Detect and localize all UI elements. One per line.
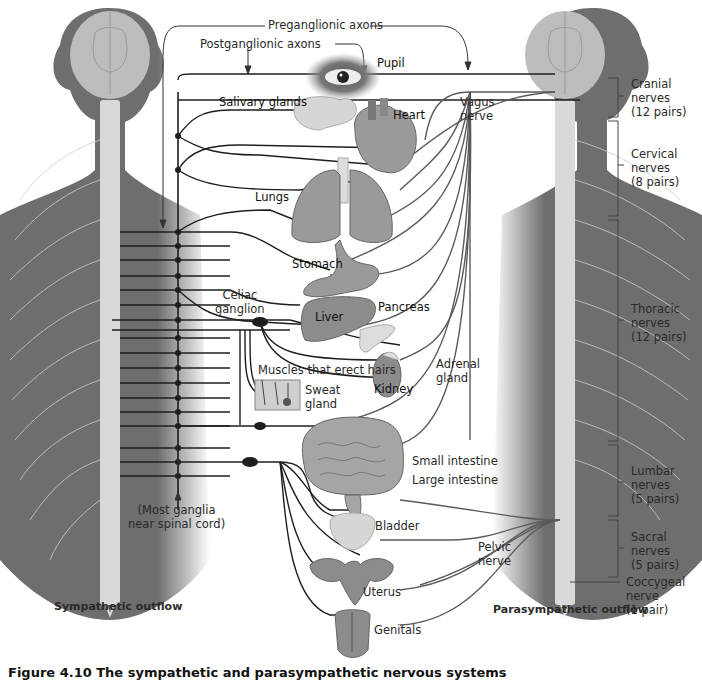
liver-label: Liver — [315, 310, 343, 324]
skin-hair-sample-illustration — [255, 380, 300, 410]
segment-line2: nerves — [631, 161, 679, 175]
segment-name: Cranial — [631, 77, 687, 91]
parasympathetic-outflow-label: Parasympathetic outflow — [493, 603, 648, 617]
vagus-nerve-label: Vagus nerve — [460, 95, 495, 123]
pupil-label: Pupil — [377, 56, 405, 70]
adrenal-line-2: gland — [436, 371, 480, 385]
segment-name: Coccygeal — [626, 575, 685, 589]
muscles-erect-hairs-label: Muscles that erect hairs — [258, 363, 396, 377]
segment-line2: nerves — [631, 316, 687, 330]
bladder-label: Bladder — [375, 519, 420, 533]
segment-count: (8 pairs) — [631, 175, 679, 189]
sympathetic-outflow-label: Sympathetic outflow — [54, 600, 182, 614]
segment-count: (12 pairs) — [631, 105, 687, 119]
celiac-line-2: ganglion — [215, 302, 265, 316]
figure-caption: Figure 4.10 The sympathetic and parasymp… — [8, 665, 507, 680]
pelvic-nerve-label: Pelvic nerve — [478, 540, 511, 568]
genitals-illustration — [335, 610, 370, 658]
thoracic-nerves-label: Thoracic nerves (12 pairs) — [631, 302, 687, 344]
segment-name: Cervical — [631, 147, 679, 161]
segment-name: Lumbar — [631, 464, 679, 478]
vagus-line-2: nerve — [460, 109, 495, 123]
most-ganglia-line-1: (Most ganglia — [128, 503, 225, 517]
heart-label: Heart — [393, 108, 425, 122]
sacral-nerves-label: Sacral nerves (5 pairs) — [631, 530, 679, 572]
preganglionic-axons-label: Preganglionic axons — [268, 18, 383, 32]
coccygeal-nerve-label: Coccygeal nerve (1 pair) — [626, 575, 685, 617]
most-ganglia-line-2: near spinal cord) — [128, 517, 225, 531]
segment-line2: nerves — [631, 478, 679, 492]
stomach-label: Stomach — [292, 257, 343, 271]
lumbar-nerves-label: Lumbar nerves (5 pairs) — [631, 464, 679, 506]
genitals-label: Genitals — [374, 623, 421, 637]
large-intestine-label: Large intestine — [412, 473, 498, 487]
vagus-line-1: Vagus — [460, 95, 495, 109]
lungs-label: Lungs — [255, 190, 289, 204]
segment-name: Thoracic — [631, 302, 687, 316]
segment-count: (5 pairs) — [631, 492, 679, 506]
salivary-glands-label: Salivary glands — [219, 95, 307, 109]
bladder-illustration — [330, 513, 375, 550]
cervical-nerves-label: Cervical nerves (8 pairs) — [631, 147, 679, 189]
pancreas-label: Pancreas — [378, 300, 430, 314]
pelvic-line-2: nerve — [478, 554, 511, 568]
most-ganglia-label: (Most ganglia near spinal cord) — [128, 503, 225, 531]
segment-line2: nerves — [631, 544, 679, 558]
cranial-nerves-label: Cranial nerves (12 pairs) — [631, 77, 687, 119]
sweat-gland-label: Sweat gland — [305, 383, 340, 411]
segment-line2: nerve — [626, 589, 685, 603]
pancreas-illustration — [360, 325, 395, 352]
adrenal-line-1: Adrenal — [436, 357, 480, 371]
uterus-label: Uterus — [363, 585, 401, 599]
postganglionic-axons-label: Postganglionic axons — [200, 37, 321, 51]
kidney-label: Kidney — [374, 382, 413, 396]
celiac-line-1: Celiac — [215, 288, 265, 302]
sweat-line-2: gland — [305, 397, 340, 411]
small-intestine-label: Small intestine — [412, 454, 498, 468]
celiac-ganglion-label: Celiac ganglion — [215, 288, 265, 316]
segment-name: Sacral — [631, 530, 679, 544]
sweat-line-1: Sweat — [305, 383, 340, 397]
eye-illustration — [305, 53, 381, 101]
adrenal-gland-label: Adrenal gland — [436, 357, 480, 385]
segment-count: (5 pairs) — [631, 558, 679, 572]
segment-line2: nerves — [631, 91, 687, 105]
pelvic-line-1: Pelvic — [478, 540, 511, 554]
segment-count: (12 pairs) — [631, 330, 687, 344]
segment-count: (1 pair) — [626, 603, 685, 617]
